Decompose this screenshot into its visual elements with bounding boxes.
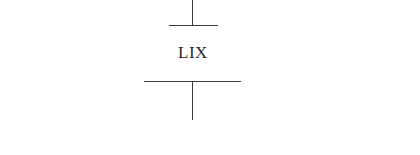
top-horizontal-line	[169, 25, 218, 26]
bottom-vertical-line	[192, 81, 193, 120]
diagram-label: LIX	[143, 43, 243, 63]
top-vertical-line	[192, 0, 193, 26]
